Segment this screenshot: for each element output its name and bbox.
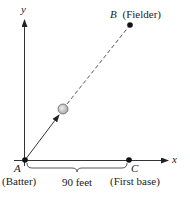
x-axis-label: x	[171, 153, 177, 165]
point-a	[22, 157, 28, 163]
point-a-letter: A	[13, 162, 21, 174]
point-b-caption: (Fielder)	[122, 8, 161, 21]
ball-trajectory-arrow	[25, 115, 59, 160]
point-a-caption: (Batter)	[2, 175, 37, 188]
baseball-diagram: y x B (Fielder) A (Batter) C (First base…	[0, 0, 190, 198]
dashed-path-line	[63, 25, 130, 109]
point-c-letter: C	[131, 162, 139, 174]
y-axis-label: y	[20, 3, 26, 15]
point-b	[127, 22, 133, 28]
ball-icon	[58, 104, 68, 114]
diagram-canvas: y x B (Fielder) A (Batter) C (First base…	[0, 0, 190, 198]
point-b-label: B (Fielder)	[110, 8, 161, 21]
distance-label: 90 feet	[62, 176, 92, 188]
distance-brace	[27, 163, 127, 172]
point-c-caption: (First base)	[110, 175, 160, 188]
point-b-letter: B	[110, 8, 117, 20]
